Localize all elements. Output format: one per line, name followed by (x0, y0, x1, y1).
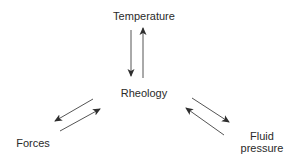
arrow-rheology-to-forces (55, 99, 93, 121)
arrow-forces-to-rheology (60, 109, 100, 131)
arrow-fluid-pressure-to-rheology (186, 108, 224, 135)
arrows-layer (0, 0, 289, 164)
arrow-rheology-to-fluid-pressure (192, 98, 229, 122)
